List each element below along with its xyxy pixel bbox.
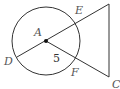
label-a: A bbox=[33, 26, 42, 39]
label-length-5: 5 bbox=[53, 52, 60, 65]
label-d: D bbox=[3, 55, 13, 68]
center-point-a bbox=[44, 39, 48, 43]
label-c: C bbox=[112, 78, 120, 89]
label-f: F bbox=[70, 66, 79, 79]
geometry-diagram: E A D 5 F C bbox=[0, 0, 120, 89]
label-e: E bbox=[74, 4, 83, 17]
